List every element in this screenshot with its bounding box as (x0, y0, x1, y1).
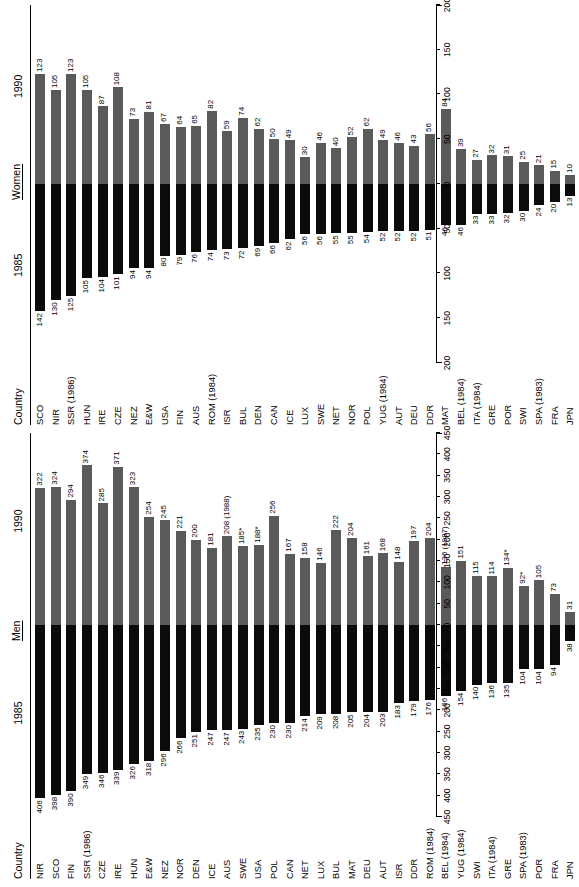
category-label: AUT (393, 363, 405, 425)
bar-value-1985: 101 (112, 276, 122, 289)
bar-value-1990: 123 (35, 59, 45, 72)
bar-value-1990: 204 (424, 523, 434, 536)
bar-1985 (35, 625, 45, 798)
bar-row: FRA9473 (548, 433, 564, 879)
bar-row: BUL7274 (236, 5, 252, 425)
bar-track: 7964 (173, 5, 189, 363)
bar-track: 230167 (283, 433, 299, 817)
bar-1985 (316, 625, 326, 714)
bar-track: 318254 (142, 433, 158, 817)
axis-tick (436, 539, 440, 540)
bar-1985 (144, 625, 154, 761)
bar-1990 (378, 553, 388, 625)
bar-track: 6249 (283, 5, 299, 363)
bar-value-1990: 221 (175, 515, 185, 528)
bar-1990 (565, 175, 575, 184)
men-axis-line (436, 433, 437, 817)
bar-value-1985: 390 (66, 793, 76, 806)
bar-value-1990: 105 (534, 565, 544, 578)
bar-value-1990: 59 (222, 120, 232, 129)
axis-tick-label: 400 (442, 789, 452, 803)
bar-track: 235188* (251, 433, 267, 817)
bar-track: 130105 (49, 5, 65, 363)
bar-1985 (565, 625, 575, 641)
bar-value-1990: 324 (50, 471, 60, 484)
category-label: SWE (237, 817, 249, 879)
bar-row: NET214158 (298, 433, 314, 879)
bar-track: 5552 (345, 5, 361, 363)
women-year-1990-label: 1990 (12, 75, 24, 98)
bar-value-1990: 10 (565, 164, 575, 173)
bar-value-1985: 204 (362, 714, 372, 727)
category-label: NOR (174, 817, 186, 879)
bar-row: AUT5246 (392, 5, 408, 425)
bar-row: SPA (1983)2421 (532, 5, 548, 425)
bar-value-1985: 406 (35, 800, 45, 813)
bar-1985 (207, 625, 217, 730)
bar-1985 (66, 625, 76, 791)
bar-row: AUT203168 (376, 433, 392, 879)
category-label: SWI (517, 363, 529, 425)
bar-row: E&W9481 (142, 5, 158, 425)
bar-value-1990: 285 (97, 488, 107, 501)
axis-tick-label: 50 (442, 224, 452, 234)
bar-track: 203168 (376, 433, 392, 817)
bar-value-1990: 168 (378, 538, 388, 551)
bar-track: 104105 (532, 433, 548, 817)
women-bar-rows: SCO142123NIR130105SSR (1986)125123HUN105… (33, 5, 490, 425)
bar-row: NEZ296245 (158, 433, 174, 879)
bar-1990 (191, 126, 201, 184)
bar-track: 5630 (298, 5, 314, 363)
bar-value-1985: 230 (268, 725, 278, 738)
bar-1990 (160, 520, 170, 625)
bar-1985 (129, 625, 139, 764)
axis-tick (436, 273, 440, 274)
bar-row: E&W318254 (142, 433, 158, 879)
bar-1990 (363, 129, 373, 184)
bar-row: USA8067 (158, 5, 174, 425)
bar-value-1990: 256 (268, 500, 278, 513)
category-label: IRE (96, 363, 108, 425)
bar-value-1990: 49 (284, 129, 294, 138)
bar-value-1990: 123 (66, 59, 76, 72)
axis-tick (436, 317, 440, 318)
bar-value-1990: 208 (1988) (222, 496, 232, 535)
category-label: ICE (284, 363, 296, 425)
category-label: CZE (112, 363, 124, 425)
bar-row: SCO398324 (49, 433, 65, 879)
bar-value-1990: 294 (66, 484, 76, 497)
bar-1990 (425, 134, 435, 184)
bar-value-1985: 79 (175, 257, 185, 266)
bar-1985 (534, 625, 544, 669)
bar-value-1985: 251 (190, 734, 200, 747)
bar-1985 (316, 184, 326, 234)
bar-row: CAN230167 (283, 433, 299, 879)
bar-value-1985: 20 (549, 204, 559, 213)
bar-value-1985: 176 (424, 702, 434, 715)
bar-1985 (222, 625, 232, 730)
bar-track: 349374 (80, 433, 96, 817)
bar-1990 (66, 74, 76, 184)
bar-1990 (51, 487, 61, 625)
axis-tick (436, 709, 440, 710)
bar-track: 208222 (329, 433, 345, 817)
bar-row: SWE243185* (236, 433, 252, 879)
bar-1985 (113, 184, 123, 274)
bar-value-1985: 30 (518, 213, 528, 222)
category-label: SCO (34, 363, 46, 425)
bar-value-1985: 214 (300, 718, 310, 731)
bar-1985 (409, 625, 419, 701)
bar-1990 (207, 111, 217, 184)
bar-track: 326323 (127, 433, 143, 817)
axis-tick-label: 350 (442, 469, 452, 483)
men-panel-title: Men (10, 621, 22, 641)
bar-value-1985: 94 (549, 667, 559, 676)
bar-1990 (129, 119, 139, 184)
bar-1985 (82, 625, 92, 774)
bar-value-1985: 94 (128, 270, 138, 279)
bar-row: NET5540 (329, 5, 345, 425)
axis-tick-label: 0 (442, 623, 452, 628)
category-label: CAN (284, 817, 296, 879)
bar-value-1985: 66 (268, 245, 278, 254)
bar-1990 (425, 538, 435, 625)
